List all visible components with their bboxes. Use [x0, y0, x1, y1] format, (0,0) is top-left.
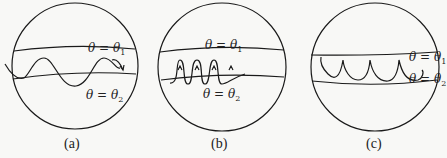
arrowheads-b: [178, 66, 233, 70]
diagram-svg: [0, 0, 447, 158]
caption-a: (a): [64, 136, 80, 152]
theta2-label-b: θ = θ2: [203, 87, 240, 103]
theta1-label-c: θ = θ1: [409, 50, 446, 66]
nutation-figure: θ = θ1 θ = θ2 (a) θ = θ1 θ = θ2 (b) θ = …: [0, 0, 447, 158]
band-bottom-a: [13, 73, 136, 79]
theta2-label-c: θ = θ2: [409, 72, 446, 88]
theta1-label-a: θ = θ1: [88, 41, 125, 57]
caption-b: (b): [211, 136, 227, 152]
theta2-label-a: θ = θ2: [86, 88, 123, 104]
caption-c: (c): [366, 136, 382, 152]
sphere-a: [12, 3, 138, 129]
path-b: [170, 60, 245, 84]
theta1-label-b: θ = θ1: [205, 38, 242, 54]
path-a: [5, 58, 120, 86]
band-bottom-b: [161, 75, 284, 80]
sphere-c: [311, 3, 439, 131]
path-c: [321, 57, 423, 81]
